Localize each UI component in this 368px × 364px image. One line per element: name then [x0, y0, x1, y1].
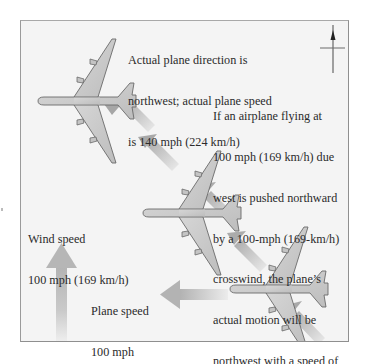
- plane-top: [38, 39, 136, 163]
- explanation-line: northwest with a speed of: [213, 355, 339, 364]
- explanation-line: If an airplane flying at: [213, 110, 339, 124]
- plane-label-line: 100 mph: [91, 346, 149, 360]
- caption-line: Actual plane direction is: [128, 54, 272, 68]
- explanation-line: crosswind, the plane’s: [213, 273, 339, 287]
- plane-speed-label: Plane speed 100 mph (169 km/h): [91, 278, 149, 364]
- plane-label-line: Plane speed: [91, 305, 149, 319]
- north-arrow-icon: [320, 25, 345, 73]
- explanation-line: actual motion will be: [213, 314, 339, 328]
- wind-label-line: Wind speed: [28, 233, 129, 247]
- explanation-line: 100 mph (169 km/h) due: [213, 151, 339, 165]
- explanation-line: west is pushed northward: [213, 192, 339, 206]
- explanation-text: If an airplane flying at 100 mph (169 km…: [213, 83, 339, 364]
- explanation-line: by a 100-mph (169-km/h): [213, 233, 339, 247]
